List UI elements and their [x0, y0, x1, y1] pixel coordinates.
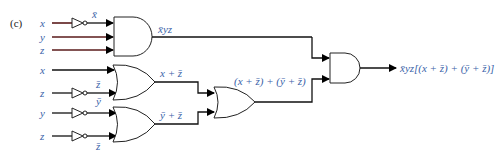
- label-and1-output: x̄yz: [157, 23, 173, 35]
- input-z-2: z: [39, 87, 45, 99]
- label-final-output: x̄yz[(x + z̄) + (ȳ + z̄)]: [399, 62, 494, 75]
- wire-or1-out: [155, 82, 214, 93]
- part-label: (c): [10, 17, 23, 30]
- label-or2-output: ȳ + z̄: [159, 109, 183, 121]
- label-z-bar-1: z̄: [95, 78, 101, 90]
- and-gate-1: [114, 17, 152, 56]
- label-or1-output: x + z̄: [159, 67, 183, 79]
- input-z-1: z: [39, 44, 45, 56]
- input-x-2: x: [39, 64, 45, 76]
- label-x-bar: x̄: [91, 8, 97, 20]
- label-or3-output: (x + z̄) + (ȳ + z̄): [234, 75, 306, 88]
- input-y-1: y: [39, 31, 45, 43]
- or-gate-3: [214, 87, 255, 118]
- label-y-bar: ȳ: [95, 95, 102, 107]
- logic-circuit-diagram: (c) x y z x̄ x̄yz x z z̄ x + z̄ y z ȳ z̄: [0, 0, 504, 152]
- inverter-icon: [72, 131, 87, 141]
- inverter-icon: [72, 88, 87, 98]
- and-gate-final: [330, 53, 360, 83]
- wire-to-final-and-1: [312, 37, 329, 58]
- inverter-icon: [72, 108, 87, 118]
- input-y-3: y: [39, 107, 45, 119]
- or-gate-1: [113, 65, 155, 100]
- inverter-icon: [72, 18, 87, 28]
- or-gate-2: [113, 107, 155, 142]
- input-x-1: x: [39, 17, 45, 29]
- input-z-3: z: [39, 130, 45, 142]
- label-z-bar-2: z̄: [95, 140, 101, 152]
